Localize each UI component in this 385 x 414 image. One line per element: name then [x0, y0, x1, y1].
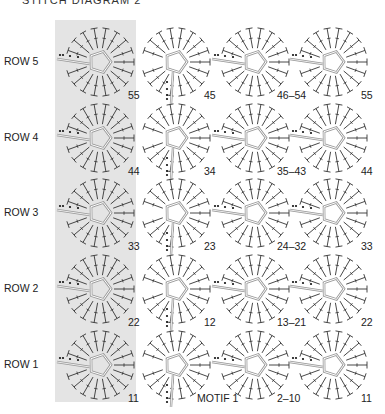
crochet-motif — [57, 104, 134, 172]
motif-number: 44 — [361, 165, 373, 177]
motif-number: 22 — [361, 316, 373, 328]
crochet-motif — [143, 28, 210, 104]
crochet-motif — [290, 331, 367, 399]
motif-1-label: MOTIF 1 — [197, 392, 238, 404]
crochet-motif — [212, 179, 289, 247]
motif-number: 35–43 — [277, 165, 306, 177]
motif-number: 11 — [128, 392, 139, 404]
motif-number: 55 — [128, 89, 140, 101]
motif-number: 33 — [361, 240, 373, 252]
motif-number: 13–21 — [277, 316, 306, 328]
crochet-motif — [212, 104, 289, 172]
crochet-motif — [57, 28, 134, 96]
crochet-motif — [290, 104, 367, 172]
row-label: ROW 4 — [4, 131, 38, 143]
crochet-motif — [57, 331, 134, 399]
row-label: ROW 2 — [4, 282, 38, 294]
motif-number: 12 — [204, 316, 216, 328]
crochet-motif — [212, 331, 289, 399]
motif-number: 34 — [204, 165, 216, 177]
motif-number: 55 — [361, 89, 373, 101]
crochet-motif — [290, 255, 367, 323]
row-label: ROW 3 — [4, 206, 38, 218]
crochet-motif — [143, 104, 210, 180]
motif-number: 24–32 — [277, 240, 306, 252]
row-label: ROW 5 — [4, 55, 38, 67]
crochet-motif — [143, 179, 210, 255]
row-label: ROW 1 — [4, 358, 38, 370]
crochet-motif — [143, 255, 210, 331]
motif-number: 11 — [361, 392, 372, 404]
crochet-motif — [57, 255, 134, 323]
motif-number: 44 — [128, 165, 140, 177]
motif-number: 2–10 — [277, 392, 300, 404]
motif-number: 23 — [204, 240, 216, 252]
motif-number: 22 — [128, 316, 140, 328]
crochet-motif — [290, 28, 367, 96]
crochet-motif — [290, 179, 367, 247]
motif-grid — [0, 0, 385, 414]
motif-number: 46–54 — [277, 89, 306, 101]
motif-number: 33 — [128, 240, 140, 252]
crochet-motif — [212, 28, 289, 96]
motif-number: 45 — [204, 89, 216, 101]
crochet-motif — [57, 179, 134, 247]
crochet-motif — [212, 255, 289, 323]
